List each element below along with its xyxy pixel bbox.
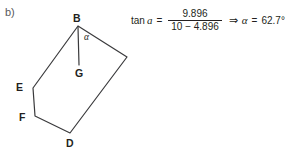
fraction: 9.896 10 − 4.896: [166, 9, 224, 32]
equals-sign: =: [152, 16, 166, 26]
segment-b-to-g: [78, 27, 79, 65]
angle-variable: a: [145, 15, 153, 26]
figure-page: b) B G E F D α tan a = 9.896 10 − 4.896 …: [0, 0, 295, 154]
equals-sign-2: =: [248, 16, 262, 26]
angle-label-alpha: α: [84, 33, 89, 43]
vertex-label-d: D: [66, 138, 74, 149]
angle-result-value: 62.7°: [261, 16, 284, 26]
vertex-label-f: F: [19, 112, 25, 123]
vertex-label-e: E: [16, 82, 23, 93]
polygon-shape: [33, 26, 127, 133]
vertex-label-b: B: [73, 13, 81, 24]
fraction-numerator: 9.896: [180, 9, 211, 20]
equation: tan a = 9.896 10 − 4.896 ⇒ α = 62.7°: [131, 9, 285, 32]
tan-function-name: tan: [131, 16, 145, 26]
vertex-label-g: G: [75, 68, 83, 79]
implies-arrow-icon: ⇒: [224, 15, 242, 26]
fraction-denominator: 10 − 4.896: [168, 21, 222, 32]
